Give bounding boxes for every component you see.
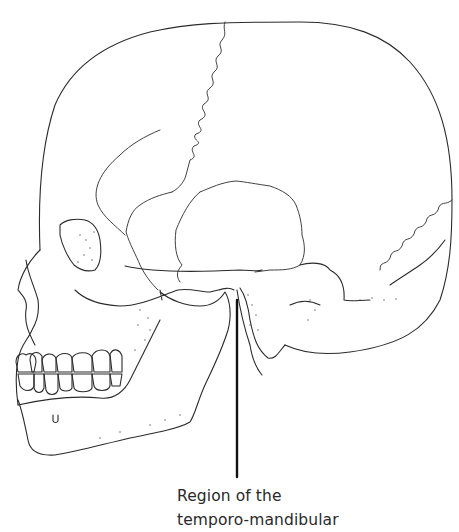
temporal-squama xyxy=(175,181,304,282)
orbit xyxy=(60,219,101,271)
mastoid xyxy=(240,240,445,358)
temporal-line xyxy=(96,130,160,235)
mental-foramen xyxy=(53,415,58,423)
mandible-ramus-back xyxy=(237,290,262,375)
annotation-label-line1: Region of the xyxy=(177,484,282,508)
lambdoid-suture xyxy=(380,200,452,270)
zygomatic-arch xyxy=(75,266,262,306)
upper-teeth xyxy=(16,350,122,372)
lower-teeth xyxy=(18,374,122,395)
coronal-suture xyxy=(172,22,225,192)
sphenoid-region xyxy=(126,192,172,290)
annotation-label-line2: temporo-mandibular xyxy=(177,508,339,532)
